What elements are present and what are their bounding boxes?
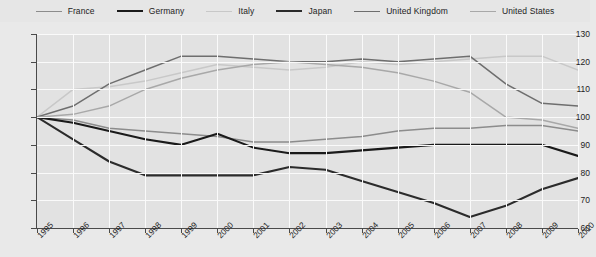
plot-wrapper: 1301201101009080706019951996199719981999…: [0, 22, 590, 257]
legend-item-france[interactable]: France: [36, 6, 95, 16]
series-line-italy: [37, 56, 578, 117]
legend-swatch-icon: [36, 11, 62, 12]
series-line-united-kingdom: [37, 56, 578, 117]
gridline-horizontal: [37, 200, 578, 201]
y-axis-label: 110: [562, 84, 590, 94]
gridline-horizontal: [37, 62, 578, 63]
gridline-horizontal: [37, 145, 578, 146]
y-axis-label: 100: [562, 112, 590, 122]
y-axis-tick: [31, 200, 36, 201]
legend-swatch-icon: [206, 11, 232, 12]
legend-swatch-icon: [117, 10, 143, 12]
y-axis-label: 120: [562, 57, 590, 67]
gridline-vertical: [470, 34, 471, 228]
legend-item-germany[interactable]: Germany: [117, 6, 185, 16]
legend-label: United States: [502, 6, 554, 16]
y-axis-tick: [31, 173, 36, 174]
gridline-vertical: [542, 34, 543, 228]
y-axis-label: 70: [562, 195, 590, 205]
y-axis-line: [36, 34, 37, 229]
gridline-vertical: [326, 34, 327, 228]
gridline-vertical: [145, 34, 146, 228]
legend-label: Japan: [308, 6, 332, 16]
gridline-vertical: [109, 34, 110, 228]
gridline-horizontal: [37, 173, 578, 174]
gridline-vertical: [434, 34, 435, 228]
legend-label: Germany: [149, 6, 185, 16]
gridline-vertical: [398, 34, 399, 228]
legend-item-united-kingdom[interactable]: United Kingdom: [354, 6, 448, 16]
chart-legend: FranceGermanyItalyJapanUnited KingdomUni…: [0, 0, 590, 22]
gridline-vertical: [217, 34, 218, 228]
legend-swatch-icon: [470, 11, 496, 12]
legend-item-united-states[interactable]: United States: [470, 6, 554, 16]
source-note: [330, 247, 588, 257]
y-axis-tick: [31, 62, 36, 63]
y-axis-label: 130: [562, 29, 590, 39]
gridline-vertical: [506, 34, 507, 228]
y-axis-label: 80: [562, 168, 590, 178]
gridline-horizontal: [37, 89, 578, 90]
gridline-horizontal: [37, 34, 578, 35]
y-axis-tick: [31, 117, 36, 118]
y-axis-tick: [31, 228, 36, 229]
gridline-vertical: [362, 34, 363, 228]
gridline-vertical: [181, 34, 182, 228]
y-axis-tick: [31, 145, 36, 146]
gridline-horizontal: [37, 117, 578, 118]
legend-swatch-icon: [354, 11, 380, 12]
y-axis-tick: [31, 89, 36, 90]
legend-item-italy[interactable]: Italy: [206, 6, 254, 16]
y-axis-label: 90: [562, 140, 590, 150]
legend-label: Italy: [238, 6, 254, 16]
legend-label: France: [68, 6, 95, 16]
series-line-germany: [37, 117, 578, 156]
y-axis-tick: [31, 34, 36, 35]
series-line-united-states: [37, 62, 578, 129]
legend-swatch-icon: [276, 10, 302, 12]
legend-item-japan[interactable]: Japan: [276, 6, 332, 16]
plot-area: [37, 34, 578, 228]
series-lines: [37, 34, 578, 228]
series-line-france: [37, 117, 578, 142]
gridline-vertical: [73, 34, 74, 228]
gridline-vertical: [253, 34, 254, 228]
legend-label: United Kingdom: [386, 6, 448, 16]
gridline-vertical: [289, 34, 290, 228]
